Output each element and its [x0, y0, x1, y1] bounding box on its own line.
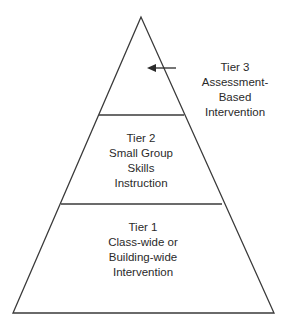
arrow-left-icon	[147, 64, 176, 72]
tier3-label: Tier 3 Assessment- Based Intervention	[190, 60, 280, 120]
tier2-line-4: Instruction	[96, 176, 186, 191]
tier2-label: Tier 2 Small Group Skills Instruction	[96, 131, 186, 191]
tier1-line-4: Intervention	[93, 265, 193, 280]
tier2-line-3: Skills	[96, 161, 186, 176]
tier2-line-1: Tier 2	[96, 131, 186, 146]
tier3-line-4: Intervention	[190, 105, 280, 120]
tier1-line-3: Building-wide	[93, 250, 193, 265]
tier2-line-2: Small Group	[96, 146, 186, 161]
tier1-line-2: Class-wide or	[93, 235, 193, 250]
tier3-line-3: Based	[190, 90, 280, 105]
tier3-line-2: Assessment-	[190, 75, 280, 90]
tier1-line-1: Tier 1	[93, 220, 193, 235]
tier3-line-1: Tier 3	[190, 60, 280, 75]
tier1-label: Tier 1 Class-wide or Building-wide Inter…	[93, 220, 193, 280]
